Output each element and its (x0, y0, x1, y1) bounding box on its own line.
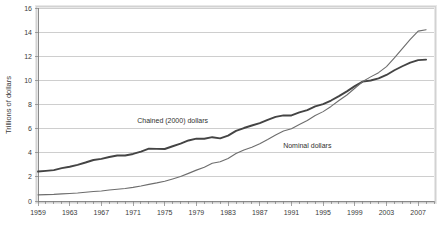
series-label-1: Chained (2000) dollars (137, 117, 208, 125)
y-tick-label: 6 (28, 125, 32, 132)
x-tick-label: 1959 (30, 209, 46, 216)
x-tick-label: 2007 (410, 209, 426, 216)
y-tick-label: 16 (24, 5, 32, 12)
x-tick-label: 1979 (189, 209, 205, 216)
y-tick-label: 14 (24, 29, 32, 36)
x-tick-label: 1991 (284, 209, 300, 216)
x-tick-label: 1963 (62, 209, 78, 216)
x-tick-label: 1995 (315, 209, 331, 216)
x-tick-label: 1971 (125, 209, 141, 216)
x-tick-label: 1975 (157, 209, 173, 216)
x-tick-label: 1967 (94, 209, 110, 216)
y-tick-label: 2 (28, 173, 32, 180)
x-tick-label: 1983 (220, 209, 236, 216)
x-tick-label: 1999 (347, 209, 363, 216)
y-tick-label: 12 (24, 53, 32, 60)
y-tick-label: 0 (28, 198, 32, 205)
x-tick-label: 1987 (252, 209, 268, 216)
y-tick-label: 8 (28, 101, 32, 108)
y-tick-label: 4 (28, 149, 32, 156)
series-label-2: Nominal dollars (283, 142, 332, 149)
line-chart: 0246810121416 19591963196719711975197919… (0, 0, 442, 233)
y-tick-label: 10 (24, 77, 32, 84)
chart-figure: 0246810121416 19591963196719711975197919… (0, 0, 442, 233)
y-axis-title: Trillions of dollars (4, 76, 13, 134)
x-tick-label: 2003 (379, 209, 395, 216)
